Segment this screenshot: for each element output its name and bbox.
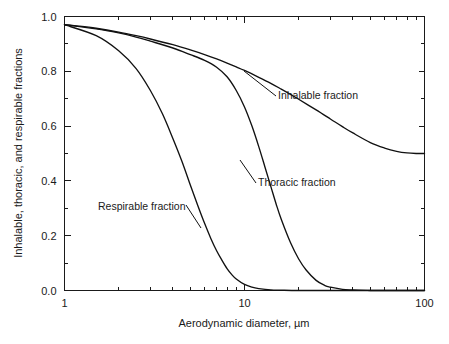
y-tick-label-0.6: 0.6	[41, 120, 56, 132]
curve-inhalable-fraction	[65, 25, 425, 154]
data-curves	[65, 25, 425, 291]
curve-respirable-fraction	[65, 25, 425, 291]
y-tick-label-0.0: 0.0	[41, 285, 56, 297]
leader-line-thoracic	[240, 160, 256, 183]
series-label-respirable: Respirable fraction	[98, 200, 186, 212]
y-axis-title: Inhalable, thoracic, and respirable frac…	[12, 48, 24, 258]
y-tick-label-0.8: 0.8	[41, 65, 56, 77]
series-label-thoracic: Thoracic fraction	[258, 176, 336, 188]
y-axis-ticks	[65, 17, 425, 291]
x-axis-ticks	[65, 17, 425, 291]
plot-frame	[65, 17, 425, 291]
x-axis-tick-labels: 110100	[61, 297, 433, 309]
series-label-inhalable: Inhalable fraction	[278, 89, 358, 101]
annotation-leader-lines	[186, 71, 276, 228]
chart-figure: 110100 0.00.20.40.60.81.0 Inhalable frac…	[0, 0, 449, 344]
x-tick-label-1: 1	[61, 297, 67, 309]
y-tick-label-0.2: 0.2	[41, 230, 56, 242]
curve-thoracic-fraction	[65, 25, 425, 291]
x-tick-label-10: 10	[238, 297, 250, 309]
y-tick-label-0.4: 0.4	[41, 175, 56, 187]
series-annotations: Inhalable fraction Thoracic fraction Res…	[98, 89, 358, 212]
x-tick-label-100: 100	[415, 297, 433, 309]
chart-svg: 110100 0.00.20.40.60.81.0 Inhalable frac…	[0, 0, 449, 344]
y-tick-label-1.0: 1.0	[41, 11, 56, 23]
x-axis-title: Aerodynamic diameter, µm	[178, 317, 309, 329]
y-axis-tick-labels: 0.00.20.40.60.81.0	[41, 11, 56, 297]
